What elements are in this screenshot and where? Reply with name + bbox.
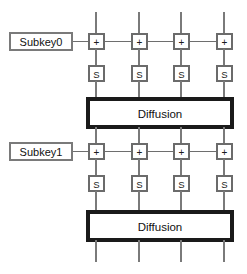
input-wires [96,12,224,34]
sbox-glyph-r0-lane-1: S [136,69,142,80]
subkey0-label: Subkey0 [20,36,63,48]
sbox-glyph-r1-lane-1: S [136,179,142,190]
round-0: Subkey0 + + + + S S S S [10,33,232,144]
xor-glyph-r0-lane-0: + [94,37,100,48]
diffusion-label-round-0: Diffusion [138,108,183,120]
subkey1-label: Subkey1 [20,146,63,158]
xor-glyph-r1-lane-0: + [94,147,100,158]
diagram-canvas: Subkey0 + + + + S S S S [0,0,247,274]
spn-diagram: Subkey0 + + + + S S S S [0,0,247,274]
sbox-glyph-r1-lane-3: S [221,179,227,190]
sbox-glyph-r0-lane-2: S [178,69,184,80]
sbox-glyph-r0-lane-0: S [93,69,99,80]
diffusion-label-round-1: Diffusion [138,221,183,233]
output-wires [96,240,224,262]
sbox-glyph-r0-lane-3: S [221,69,227,80]
sbox-glyph-r1-lane-0: S [93,179,99,190]
xor-glyph-r1-lane-2: + [179,147,185,158]
xor-glyph-r0-lane-2: + [179,37,185,48]
xor-glyph-r1-lane-1: + [137,147,143,158]
sbox-glyph-r1-lane-2: S [178,179,184,190]
xor-glyph-r0-lane-1: + [137,37,143,48]
xor-glyph-r1-lane-3: + [222,147,228,158]
round-1: Subkey1 + + + + S S S S [10,143,232,240]
xor-glyph-r0-lane-3: + [222,37,228,48]
